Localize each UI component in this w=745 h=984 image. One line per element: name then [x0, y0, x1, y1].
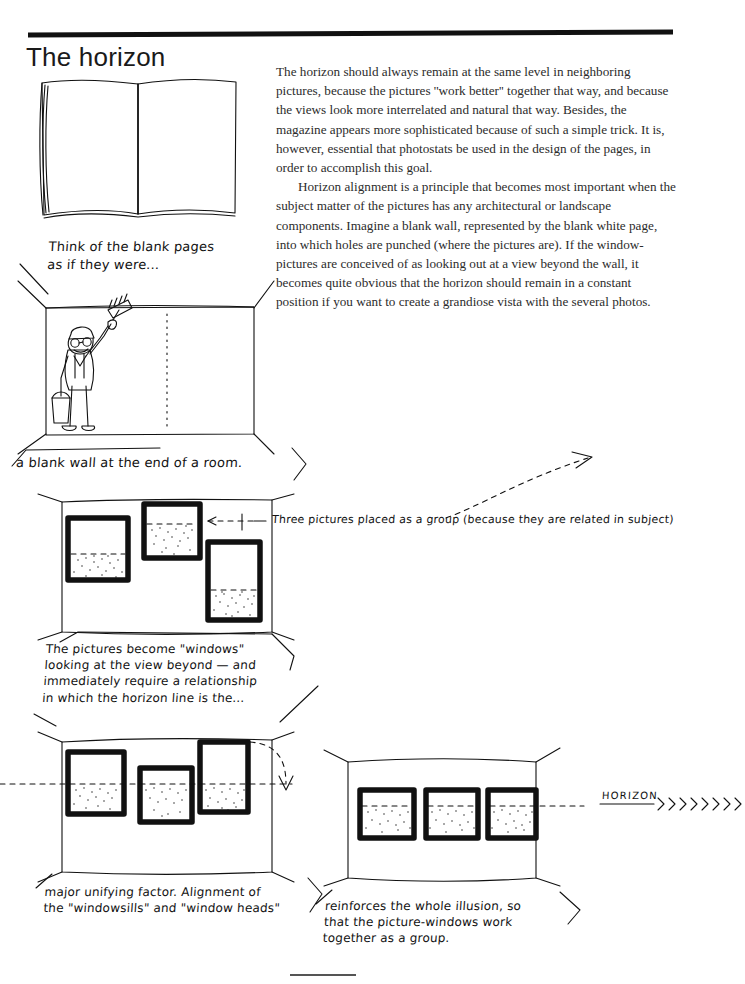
- body-text-column: The horizon should always remain at the …: [276, 62, 676, 312]
- dashed-arrow-curved: [440, 440, 610, 520]
- caption-blank-pages: Think of the blank pages as if they were…: [47, 238, 215, 273]
- caption-bracket-2: [10, 444, 310, 488]
- figure-painter-room: [16, 278, 278, 456]
- caption-leader-3: [196, 512, 276, 532]
- header-rule: [28, 30, 673, 38]
- page-canvas: The horizon The horizon should always re…: [0, 0, 745, 984]
- figure-aligned-left: [36, 730, 298, 885]
- figure-aligned-right: [322, 738, 584, 888]
- page-title: The horizon: [26, 42, 166, 73]
- footer-rule: [290, 974, 356, 976]
- body-paragraph-2: Horizon alignment is a principle that be…: [276, 177, 676, 311]
- caption-bracket-6: [312, 886, 592, 946]
- caption-three-pictures: Three pictures placed as a group (becaus…: [271, 513, 674, 528]
- caption-bracket-5: [32, 872, 332, 932]
- caption-bracket-4: [32, 630, 332, 730]
- horizon-arrow-chevrons: [596, 792, 744, 816]
- figure-open-book: [34, 74, 244, 226]
- body-paragraph-1: The horizon should always remain at the …: [276, 62, 676, 177]
